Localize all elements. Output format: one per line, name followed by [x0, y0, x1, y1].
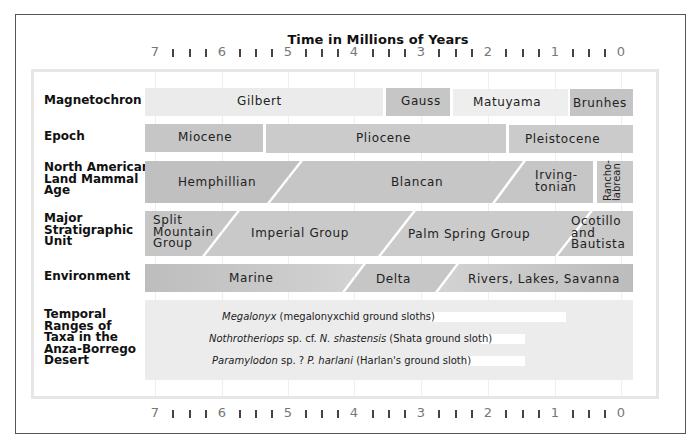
range-bar-megalonyx: [430, 312, 566, 322]
tick-minor: [372, 410, 374, 418]
tick-minor: [455, 410, 457, 418]
tick-minor: [438, 49, 440, 57]
tick-minor: [205, 410, 207, 418]
tick-label: 6: [218, 405, 226, 420]
segment-brunhes: Brunhes: [573, 97, 627, 109]
tick-minor: [321, 410, 323, 418]
tick-minor: [239, 49, 241, 57]
tick-minor: [305, 49, 307, 57]
tick-minor: [471, 49, 473, 57]
tick-minor: [572, 410, 574, 418]
tick-minor: [255, 49, 257, 57]
segment-palm-spring-group: Palm Spring Group: [408, 228, 530, 240]
segment-delta: Delta: [376, 273, 411, 285]
tick-minor: [189, 49, 191, 57]
segment-rivers-lakes-savanna: Rivers, Lakes, Savanna: [468, 273, 620, 285]
segment-pleistocene: Pleistocene: [525, 133, 600, 145]
tick-minor: [337, 410, 339, 418]
tick-minor: [239, 410, 241, 418]
tick-label: 3: [417, 44, 425, 59]
tick-label: 4: [350, 405, 358, 420]
tick-minor: [538, 410, 540, 418]
segment-ocotillo-bautista: Ocotillo and Bautista: [571, 216, 633, 251]
stratigraphic-band: Split Mountain Group Imperial Group Palm…: [145, 211, 633, 256]
tick-label: 7: [151, 44, 159, 59]
tick-minor: [172, 410, 174, 418]
segment-matuyama: Matuyama: [473, 96, 541, 108]
taxon-nothrotheriops: Nothrotheriops sp. cf. N. shastensis (Sh…: [209, 333, 492, 344]
tick-minor: [522, 49, 524, 57]
tick-minor: [604, 49, 606, 57]
environment-band: Marine Delta Rivers, Lakes, Savanna: [145, 264, 633, 292]
taxon-megalonyx: Megalonyx (megalonyxchid ground sloths): [222, 311, 435, 322]
tick-label: 5: [284, 44, 292, 59]
tick-label: 6: [218, 44, 226, 59]
segment-miocene: Miocene: [178, 131, 232, 143]
tick-minor: [189, 410, 191, 418]
tick-label: 7: [151, 405, 159, 420]
tick-minor: [205, 49, 207, 57]
segment-split-mountain-group: Split Mountain Group: [153, 215, 213, 250]
segment-irvingtonian: Irving- tonian: [535, 170, 578, 193]
tick-minor: [572, 49, 574, 57]
tick-minor: [588, 410, 590, 418]
tick-minor: [588, 49, 590, 57]
tick-minor: [305, 410, 307, 418]
range-bar-paramylodon: [467, 356, 525, 366]
tick-label: 0: [617, 405, 625, 420]
epoch-band: Miocene Pliocene Pleistocene: [145, 124, 633, 153]
row-label-taxa: Temporal Ranges of Taxa in the Anza-Borr…: [44, 309, 136, 367]
tick-minor: [505, 410, 507, 418]
segment-imperial-group: Imperial Group: [251, 227, 349, 239]
row-label-magnetochron: Magnetochron: [44, 95, 142, 107]
time-scale-top: 7 6 5 4 3 2 1 0: [0, 44, 700, 62]
tick-minor: [271, 49, 273, 57]
segment-gilbert: Gilbert: [237, 95, 282, 107]
tick-minor: [404, 49, 406, 57]
tick-minor: [388, 410, 390, 418]
taxa-ranges-panel: Megalonyx (megalonyxchid ground sloths) …: [145, 300, 633, 380]
tick-minor: [522, 410, 524, 418]
time-scale-bottom: 7 6 5 4 3 2 1 0: [0, 405, 700, 423]
tick-minor: [271, 410, 273, 418]
tick-minor: [438, 410, 440, 418]
tick-label: 2: [484, 405, 492, 420]
tick-label: 3: [417, 405, 425, 420]
tick-label: 4: [350, 44, 358, 59]
segment-pliocene: Pliocene: [356, 132, 411, 144]
taxon-paramylodon: Paramylodon sp. ? P. harlani (Harlan's g…: [212, 355, 471, 366]
segment-blancan: Blancan: [391, 176, 443, 188]
tick-minor: [388, 49, 390, 57]
segment-rancholabrean: Rancho-labrean: [603, 164, 621, 201]
tick-minor: [404, 410, 406, 418]
tick-minor: [538, 49, 540, 57]
segment-marine: Marine: [229, 272, 274, 284]
row-label-nalma: North American Land Mammal Age: [44, 162, 150, 197]
tick-minor: [337, 49, 339, 57]
row-label-stratigraphic: Major Stratigraphic Unit: [44, 213, 133, 248]
tick-label: 2: [484, 44, 492, 59]
tick-minor: [455, 49, 457, 57]
tick-label: 0: [617, 44, 625, 59]
segment-hemphillian: Hemphillian: [178, 176, 256, 188]
tick-minor: [172, 49, 174, 57]
tick-minor: [255, 410, 257, 418]
row-label-epoch: Epoch: [44, 131, 85, 143]
tick-label: 1: [551, 44, 559, 59]
tick-minor: [505, 49, 507, 57]
nalma-band: Hemphillian Blancan Irving- tonian Ranch…: [145, 161, 633, 203]
tick-label: 5: [284, 405, 292, 420]
segment-gauss: Gauss: [401, 95, 441, 107]
row-label-environment: Environment: [44, 271, 130, 283]
tick-label: 1: [551, 405, 559, 420]
tick-minor: [321, 49, 323, 57]
tick-minor: [471, 410, 473, 418]
magnetochron-band: Gilbert Gauss Matuyama Brunhes: [145, 88, 633, 116]
tick-minor: [372, 49, 374, 57]
tick-minor: [604, 410, 606, 418]
